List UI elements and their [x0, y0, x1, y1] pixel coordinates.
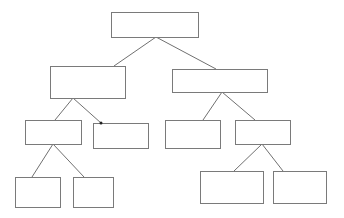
- edge-l1-right-to-l2-right-a: [203, 92, 222, 120]
- node-l2-left-b: [94, 124, 149, 149]
- node-box: [74, 178, 114, 208]
- edge-l1-right-to-l2-right-b: [222, 92, 255, 120]
- node-l2-right-b: [236, 121, 291, 145]
- node-l3-right-a: [201, 172, 264, 204]
- node-l1-right: [173, 70, 268, 93]
- edge-endpoint-dot: [100, 122, 103, 125]
- edge-l1-left-to-l2-left-a: [55, 98, 73, 120]
- edge-root-to-l1-right: [156, 37, 216, 69]
- node-l2-left-a: [26, 121, 82, 145]
- edge-l2-right-b-to-l3-right-a: [234, 144, 262, 171]
- node-box: [166, 121, 221, 149]
- node-l1-left: [51, 67, 126, 99]
- node-l3-left-b: [74, 178, 114, 208]
- node-root: [112, 13, 199, 38]
- node-box: [16, 178, 61, 208]
- edge-l2-left-a-to-l3-left-a: [32, 144, 53, 177]
- node-box: [274, 172, 327, 204]
- edges-layer: [32, 37, 283, 177]
- node-l3-right-b: [274, 172, 327, 204]
- node-box: [26, 121, 82, 145]
- node-l3-left-a: [16, 178, 61, 208]
- nodes-layer: [16, 13, 327, 208]
- node-box: [94, 124, 149, 149]
- edge-root-to-l1-left: [114, 37, 156, 66]
- node-box: [51, 67, 126, 99]
- tree-diagram: [0, 0, 344, 218]
- node-box: [173, 70, 268, 93]
- node-box: [236, 121, 291, 145]
- node-box: [112, 13, 199, 38]
- edge-l1-left-to-l2-left-b: [73, 98, 101, 123]
- node-l2-right-a: [166, 121, 221, 149]
- edge-l2-right-b-to-l3-right-b: [262, 144, 283, 171]
- node-box: [201, 172, 264, 204]
- edge-l2-left-a-to-l3-left-b: [53, 144, 84, 177]
